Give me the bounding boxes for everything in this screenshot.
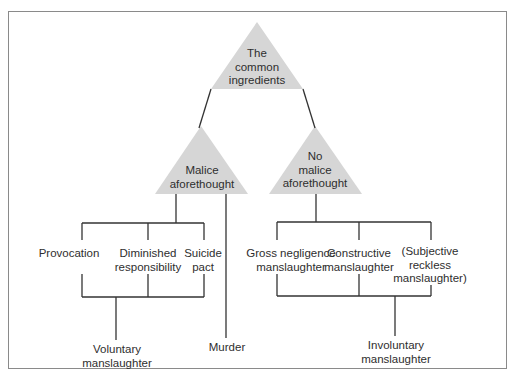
category-label-line: pact (184, 261, 222, 275)
category-provocation: Provocation (39, 247, 100, 261)
category-label-line: responsibility (115, 261, 181, 275)
root-label-line: common (229, 61, 285, 75)
no-malice-label: No malice aforethought (283, 150, 348, 191)
category-constructive-manslaughter: Constructive manslaughter (324, 247, 394, 274)
category-diminished-responsibility: Diminished responsibility (115, 247, 181, 274)
root-label-line: The (229, 47, 285, 61)
category-label-line: Provocation (39, 247, 100, 261)
category-label-line: Suicide (184, 247, 222, 261)
connector-root-right (303, 89, 315, 128)
result-label-line: Voluntary (82, 343, 152, 357)
result-involuntary-manslaughter: Involuntary manslaughter (361, 339, 431, 366)
category-label-line: Diminished (115, 247, 181, 261)
root-label: The common ingredients (229, 47, 285, 88)
malice-label-line: Malice (170, 164, 235, 178)
connector-root-left (199, 89, 211, 128)
result-label-line: Murder (209, 341, 245, 355)
no-malice-label-line: malice (283, 164, 348, 178)
category-label-line: manslaughter) (393, 272, 467, 286)
result-label-line: manslaughter (361, 353, 431, 367)
result-label-line: Involuntary (361, 339, 431, 353)
no-malice-label-line: No (283, 150, 348, 164)
category-subjective-reckless-manslaughter: (Subjective reckless manslaughter) (393, 245, 467, 286)
category-label-line: manslaughter (324, 261, 394, 275)
category-label-line: Constructive (324, 247, 394, 261)
no-malice-label-line: aforethought (283, 177, 348, 191)
result-murder: Murder (209, 341, 245, 355)
category-label-line: (Subjective (393, 245, 467, 259)
category-label-line: Gross negligence (246, 247, 336, 261)
result-voluntary-manslaughter: Voluntary manslaughter (82, 343, 152, 370)
category-label-line: manslaughter (246, 261, 336, 275)
category-suicide-pact: Suicide pact (184, 247, 222, 274)
category-label-line: reckless (393, 259, 467, 273)
malice-label: Malice aforethought (170, 164, 235, 191)
result-label-line: manslaughter (82, 357, 152, 371)
root-label-line: ingredients (229, 74, 285, 88)
category-gross-negligence-manslaughter: Gross negligence manslaughter (246, 247, 336, 274)
malice-label-line: aforethought (170, 178, 235, 192)
